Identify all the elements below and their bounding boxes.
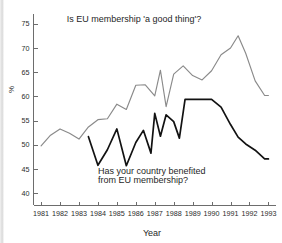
x-tick-label: 1985 [109, 209, 125, 218]
y-tick-label: 50 [22, 140, 30, 149]
chart-figure: 4045505560657075 19811982198319841985198… [0, 0, 282, 243]
x-axis: 1981198219831984198519861987198819891990… [33, 202, 276, 218]
y-axis: 4045505560657075 [22, 14, 38, 205]
x-tick-label: 1993 [260, 209, 276, 218]
x-tick-marks [42, 202, 269, 206]
good-thing-annotation: Is EU membership 'a good thing'? [67, 14, 202, 24]
x-tick-label: 1989 [185, 209, 201, 218]
benefited-annotation-line2: from EU membership? [98, 175, 188, 185]
x-tick-label: 1984 [90, 209, 106, 218]
y-tick-label: 70 [22, 44, 30, 53]
x-tick-label: 1990 [204, 209, 220, 218]
y-tick-label: 75 [22, 19, 30, 28]
y-tick-label: 55 [22, 116, 30, 125]
y-tick-label: 45 [22, 165, 30, 174]
series-benefited-line [88, 99, 268, 165]
x-tick-label: 1986 [128, 209, 144, 218]
y-axis-label: % [7, 86, 16, 93]
y-tick-label: 60 [22, 92, 30, 101]
x-tick-label: 1983 [71, 209, 87, 218]
x-tick-label: 1992 [241, 209, 257, 218]
x-tick-labels: 1981198219831984198519861987198819891990… [33, 209, 276, 218]
x-tick-label: 1982 [52, 209, 68, 218]
y-tick-label: 65 [22, 68, 30, 77]
line-chart: 4045505560657075 19811982198319841985198… [0, 0, 282, 243]
y-tick-label: 40 [22, 189, 30, 198]
x-axis-label: Year [143, 228, 161, 238]
x-tick-label: 1981 [33, 209, 49, 218]
x-tick-label: 1988 [166, 209, 182, 218]
x-tick-label: 1991 [223, 209, 239, 218]
x-tick-label: 1987 [147, 209, 163, 218]
y-tick-marks [34, 25, 38, 194]
y-tick-labels: 4045505560657075 [22, 19, 30, 198]
